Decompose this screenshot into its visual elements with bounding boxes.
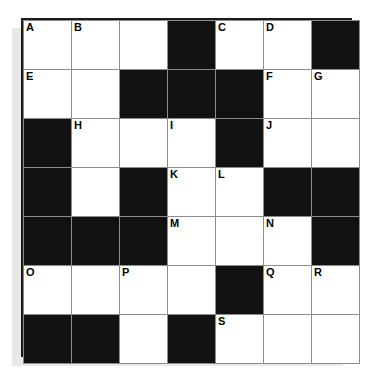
cell-label-b: B: [74, 21, 82, 34]
grid-cell-block: [24, 168, 72, 217]
grid-row: EFG: [24, 70, 360, 119]
grid-cell[interactable]: [120, 21, 168, 70]
grid-cell[interactable]: I: [168, 119, 216, 168]
grid-cell[interactable]: [168, 266, 216, 315]
grid-row: MN: [24, 217, 360, 266]
grid-cell[interactable]: B: [72, 21, 120, 70]
grid-cell[interactable]: D: [264, 21, 312, 70]
cell-label-m: M: [170, 217, 179, 230]
cell-label-a: A: [26, 21, 34, 34]
grid-cell[interactable]: [120, 119, 168, 168]
cell-label-i: I: [170, 119, 173, 132]
cell-label-f: F: [266, 70, 273, 83]
grid-cell[interactable]: O: [24, 266, 72, 315]
cell-label-r: R: [314, 266, 322, 279]
cell-label-n: N: [266, 217, 274, 230]
grid-cell[interactable]: F: [264, 70, 312, 119]
grid-cell-block: [312, 168, 360, 217]
grid-cell[interactable]: [72, 266, 120, 315]
grid-cell-block: [264, 168, 312, 217]
cell-label-j: J: [266, 119, 272, 132]
cell-label-g: G: [314, 70, 323, 83]
grid-row: HIJ: [24, 119, 360, 168]
grid-cell-block: [168, 70, 216, 119]
grid-cell[interactable]: P: [120, 266, 168, 315]
cell-label-e: E: [26, 70, 33, 83]
grid-cell-block: [120, 168, 168, 217]
cell-label-s: S: [218, 315, 225, 328]
cell-label-k: K: [170, 168, 178, 181]
grid-cell-block: [168, 315, 216, 364]
grid-cell-block: [24, 315, 72, 364]
grid-cell[interactable]: S: [216, 315, 264, 364]
grid-cell[interactable]: [312, 119, 360, 168]
grid-cell[interactable]: R: [312, 266, 360, 315]
grid-cell[interactable]: N: [264, 217, 312, 266]
grid-cell[interactable]: M: [168, 217, 216, 266]
grid-cell[interactable]: [312, 315, 360, 364]
grid-cell-block: [216, 119, 264, 168]
grid-cell-block: [120, 70, 168, 119]
grid-cell[interactable]: [72, 70, 120, 119]
grid-cell[interactable]: H: [72, 119, 120, 168]
cell-label-d: D: [266, 21, 274, 34]
grid-cell-block: [216, 266, 264, 315]
grid-row: OPQR: [24, 266, 360, 315]
grid-cell[interactable]: G: [312, 70, 360, 119]
crossword-grid: ABCDEFGHIJKLMNOPQRS: [23, 20, 360, 364]
grid-cell[interactable]: [216, 217, 264, 266]
grid-cell-block: [216, 70, 264, 119]
grid-cell-block: [312, 21, 360, 70]
grid-row: KL: [24, 168, 360, 217]
grid-cell[interactable]: [120, 315, 168, 364]
grid-cell[interactable]: Q: [264, 266, 312, 315]
grid-cell-block: [24, 119, 72, 168]
grid-cell[interactable]: E: [24, 70, 72, 119]
grid-cell-block: [24, 217, 72, 266]
cell-label-h: H: [74, 119, 82, 132]
grid-cell-block: [72, 315, 120, 364]
grid-cell[interactable]: C: [216, 21, 264, 70]
grid-cell-block: [168, 21, 216, 70]
grid-cell[interactable]: [72, 168, 120, 217]
crossword-puzzle: ABCDEFGHIJKLMNOPQRS: [0, 0, 368, 383]
grid-cell[interactable]: J: [264, 119, 312, 168]
cell-label-q: Q: [266, 266, 275, 279]
grid-row: S: [24, 315, 360, 364]
cell-label-p: P: [122, 266, 129, 279]
grid-cell[interactable]: A: [24, 21, 72, 70]
grid-cell-block: [120, 217, 168, 266]
grid-cell[interactable]: L: [216, 168, 264, 217]
cell-label-l: L: [218, 168, 225, 181]
grid-cell-block: [312, 217, 360, 266]
cell-label-o: O: [26, 266, 35, 279]
grid-cell-block: [72, 217, 120, 266]
grid-cell[interactable]: [264, 315, 312, 364]
grid-cell[interactable]: K: [168, 168, 216, 217]
crossword-grid-frame: ABCDEFGHIJKLMNOPQRS: [21, 18, 352, 357]
cell-label-c: C: [218, 21, 226, 34]
grid-row: ABCD: [24, 21, 360, 70]
